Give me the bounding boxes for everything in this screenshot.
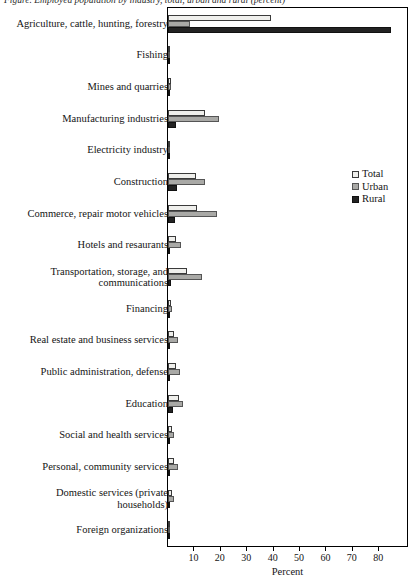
bar-row bbox=[168, 451, 407, 483]
figure-caption-clipped: Figure. Employed population by industry,… bbox=[0, 0, 415, 5]
bar-rural bbox=[168, 375, 170, 381]
category-label: Construction bbox=[3, 176, 168, 188]
bar-rural bbox=[168, 470, 170, 476]
bar-rural bbox=[168, 438, 170, 444]
bar-rural bbox=[168, 280, 171, 286]
legend-item-urban[interactable]: Urban bbox=[352, 181, 388, 194]
legend-swatch-icon bbox=[352, 171, 359, 178]
bar-rural bbox=[168, 248, 170, 254]
x-tick-label: 60 bbox=[313, 552, 337, 563]
plot-area: Agriculture, cattle, hunting, forestryFi… bbox=[167, 7, 408, 547]
legend-item-rural[interactable]: Rural bbox=[352, 193, 388, 206]
bar-rural bbox=[168, 27, 391, 33]
category-label: Foreign organizations bbox=[3, 524, 168, 536]
x-tick bbox=[246, 547, 247, 551]
category-label: Personal, community services bbox=[3, 461, 168, 473]
bar-rural bbox=[168, 502, 170, 508]
legend-label: Rural bbox=[362, 193, 385, 206]
bar-rural bbox=[168, 343, 170, 349]
bar-row bbox=[168, 388, 407, 420]
bar-rural bbox=[168, 312, 170, 318]
category-label: Mines and quarries bbox=[3, 81, 168, 93]
x-tick bbox=[193, 547, 194, 551]
bar-rural bbox=[168, 58, 170, 64]
bar-row bbox=[168, 8, 407, 40]
category-label: Public administration, defense bbox=[3, 366, 168, 378]
category-label: Social and health services bbox=[3, 429, 168, 441]
bar-row bbox=[168, 419, 407, 451]
bar-rural bbox=[168, 533, 170, 539]
bar-row bbox=[168, 135, 407, 167]
x-tick bbox=[378, 547, 379, 551]
x-tick bbox=[220, 547, 221, 551]
bar-urban bbox=[168, 211, 217, 217]
x-tick bbox=[352, 547, 353, 551]
x-tick-label: 80 bbox=[366, 552, 390, 563]
category-label: Hotels and resaurants bbox=[3, 239, 168, 251]
bar-row bbox=[168, 103, 407, 135]
x-tick-label: 40 bbox=[261, 552, 285, 563]
legend-label: Total bbox=[362, 168, 383, 181]
bar-rural bbox=[168, 185, 177, 191]
category-label: Education bbox=[3, 398, 168, 410]
x-tick-label: 70 bbox=[340, 552, 364, 563]
category-label: Transportation, storage, and communicati… bbox=[3, 266, 168, 289]
bar-row bbox=[168, 71, 407, 103]
bar-rural bbox=[168, 90, 170, 96]
bar-rural bbox=[168, 407, 173, 413]
bar-row bbox=[168, 261, 407, 293]
bar-row bbox=[168, 514, 407, 546]
x-axis: Percent 1020304050607080 bbox=[167, 547, 408, 580]
category-label: Agriculture, cattle, hunting, forestry bbox=[3, 18, 168, 30]
x-tick bbox=[299, 547, 300, 551]
legend-swatch-icon bbox=[352, 183, 359, 190]
figure-chart: Figure. Employed population by industry,… bbox=[0, 0, 415, 580]
category-label: Financing bbox=[3, 303, 168, 315]
x-tick bbox=[325, 547, 326, 551]
bar-row bbox=[168, 293, 407, 325]
x-tick bbox=[273, 547, 274, 551]
bar-rural bbox=[168, 217, 175, 223]
category-label: Real estate and business services bbox=[3, 334, 168, 346]
bar-urban bbox=[168, 274, 202, 280]
x-tick-label: 10 bbox=[181, 552, 205, 563]
legend-swatch-icon bbox=[352, 196, 359, 203]
category-label: Manufacturing industries bbox=[3, 113, 168, 125]
x-tick-label: 20 bbox=[208, 552, 232, 563]
x-tick-label: 30 bbox=[234, 552, 258, 563]
category-label: Commerce, repair motor vehicles bbox=[3, 208, 168, 220]
figure-caption-text: Figure. Employed population by industry,… bbox=[0, 0, 415, 5]
bar-row bbox=[168, 483, 407, 515]
bar-group bbox=[168, 8, 407, 546]
bar-row bbox=[168, 324, 407, 356]
bar-row bbox=[168, 356, 407, 388]
category-label: Domestic services (private households) bbox=[3, 487, 168, 510]
bar-row bbox=[168, 40, 407, 72]
category-label: Fishing bbox=[3, 49, 168, 61]
bar-row bbox=[168, 230, 407, 262]
legend-item-total[interactable]: Total bbox=[352, 168, 388, 181]
chart-legend: TotalUrbanRural bbox=[352, 168, 388, 206]
bar-rural bbox=[168, 122, 176, 128]
bar-rural bbox=[168, 153, 170, 159]
legend-label: Urban bbox=[362, 181, 388, 194]
category-label: Electricity industry bbox=[3, 144, 168, 156]
x-tick-label: 50 bbox=[287, 552, 311, 563]
x-axis-title: Percent bbox=[167, 566, 408, 577]
